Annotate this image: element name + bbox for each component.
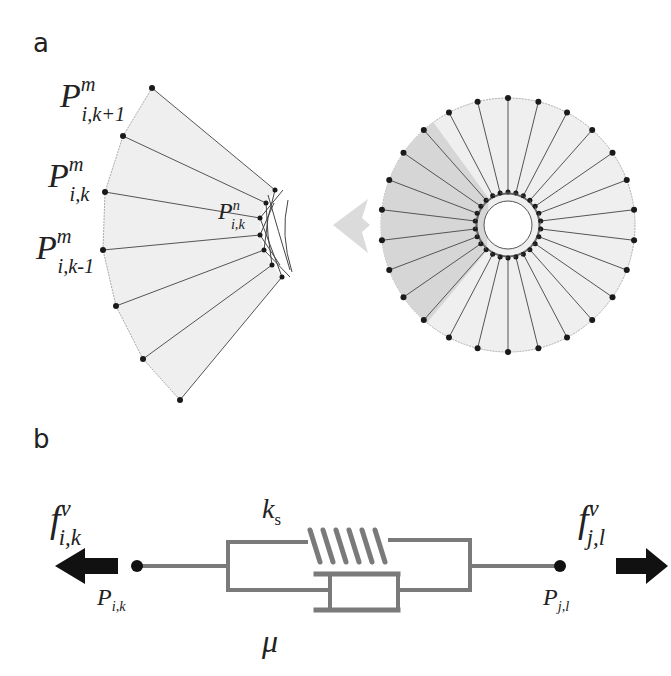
- circle-outer-node: [475, 99, 481, 105]
- inner-node: [280, 275, 285, 280]
- spring-coil: [362, 530, 372, 562]
- inner-node: [270, 263, 275, 268]
- label-p-m-ik: Pmi,k: [48, 158, 89, 199]
- label-force-left: fvi,k: [50, 500, 81, 545]
- point-left-node: [131, 560, 143, 572]
- spring-coil: [310, 530, 320, 562]
- spring-coil: [349, 530, 359, 562]
- circle-hole: [484, 201, 532, 249]
- circle-outer-node: [535, 99, 541, 105]
- label-spring-ks: ks: [262, 495, 281, 528]
- circle-outer-node: [475, 345, 481, 351]
- outer-node: [113, 303, 119, 309]
- label-point-left: Pi,k: [97, 585, 126, 613]
- circle-outer-node: [379, 237, 385, 243]
- outer-node: [140, 356, 146, 362]
- circle-outer-node: [535, 345, 541, 351]
- label-p-m-ik1: Pmi,k+1: [60, 78, 125, 119]
- label-force-right: fvj,l: [578, 500, 605, 545]
- circle-outer-node: [610, 294, 616, 300]
- label-point-right: Pj,l: [543, 585, 569, 613]
- circle-outer-node: [421, 317, 427, 323]
- circle-outer-node: [624, 177, 630, 183]
- circle-outer-node: [505, 95, 511, 101]
- circle-outer-node: [421, 127, 427, 133]
- circle-outer-node: [446, 110, 452, 116]
- outer-node: [102, 189, 108, 195]
- circle-outer-node: [505, 349, 511, 355]
- outer-node: [120, 133, 126, 139]
- inner-node: [262, 248, 267, 253]
- circle-outer-node: [386, 267, 392, 273]
- label-damper-mu: μ: [262, 625, 278, 657]
- circle-outer-node: [446, 334, 452, 340]
- point-right-node: [554, 560, 566, 572]
- circle-outer-node: [400, 294, 406, 300]
- direction-arrow-icon: [333, 199, 370, 253]
- circle-outer-node: [624, 267, 630, 273]
- circle-outer-node: [564, 334, 570, 340]
- spring-coil: [375, 530, 385, 562]
- arrow-right-icon: [616, 548, 668, 584]
- outer-node: [177, 397, 183, 403]
- spring-coil: [336, 530, 346, 562]
- inner-node: [264, 201, 269, 206]
- spring-coil: [323, 530, 333, 562]
- circle-outer-node: [610, 150, 616, 156]
- circle-outer-node: [631, 237, 637, 243]
- mesh-curve: [285, 200, 292, 272]
- circle-outer-node: [400, 150, 406, 156]
- circle-outer-node: [631, 207, 637, 213]
- circle-outer-node: [589, 317, 595, 323]
- outer-node: [100, 247, 106, 253]
- outer-node: [149, 85, 155, 91]
- inner-node: [273, 188, 278, 193]
- label-p-n-ik: Pni,k: [218, 198, 245, 227]
- circle-outer-node: [386, 177, 392, 183]
- circle-outer-node: [589, 127, 595, 133]
- arrow-left-icon: [55, 548, 118, 584]
- circle-outer-node: [379, 207, 385, 213]
- fan-fill: [103, 88, 282, 400]
- label-p-m-ik-1: Pmi,k-1: [36, 230, 94, 271]
- circle-outer-node: [564, 110, 570, 116]
- inner-node: [258, 233, 263, 238]
- inner-node: [258, 216, 263, 221]
